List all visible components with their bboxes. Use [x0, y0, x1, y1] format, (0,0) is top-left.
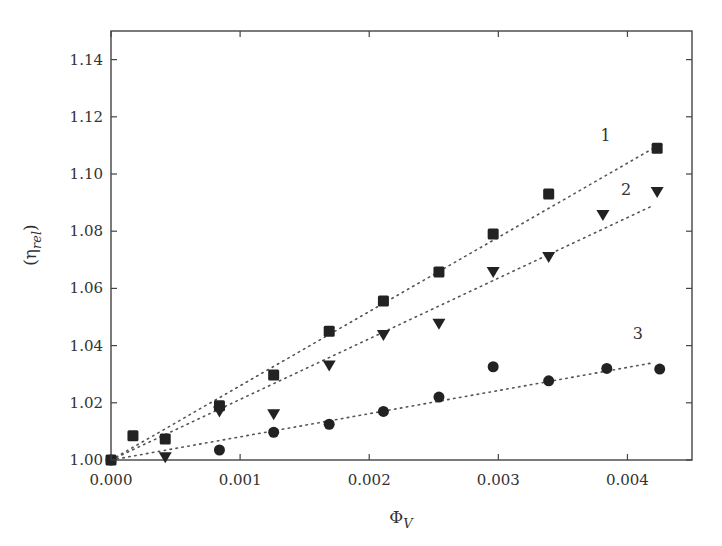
marker-square — [488, 229, 499, 240]
marker-triangle-down — [267, 409, 280, 420]
marker-circle — [214, 444, 225, 455]
y-axis-ticks: 1.001.021.041.061.081.101.121.14 — [70, 51, 692, 469]
marker-circle — [654, 364, 665, 375]
marker-square — [433, 267, 444, 278]
marker-circle — [268, 427, 279, 438]
marker-square — [324, 326, 335, 337]
x-tick-label: 0.004 — [606, 471, 649, 489]
x-tick-label: 0.002 — [348, 471, 391, 489]
marker-triangle-down — [487, 267, 500, 278]
marker-triangle-down — [596, 210, 609, 221]
y-tick-label: 1.00 — [70, 451, 103, 469]
marker-square — [543, 189, 554, 200]
marker-triangle-down — [377, 330, 390, 341]
x-tick-label: 0.001 — [219, 471, 262, 489]
y-tick-label: 1.12 — [70, 108, 103, 126]
y-tick-label: 1.10 — [70, 165, 103, 183]
marker-square — [378, 295, 389, 306]
chart-canvas: 123 0.0000.0010.0020.0030.004 1.001.021.… — [0, 0, 722, 546]
marker-triangle-down — [542, 252, 555, 263]
y-tick-label: 1.04 — [70, 337, 103, 355]
marker-triangle-down — [323, 361, 336, 372]
marker-circle — [378, 406, 389, 417]
series-label-2: 2 — [621, 180, 631, 199]
y-tick-label: 1.06 — [70, 279, 103, 297]
marker-triangle-down — [651, 187, 664, 198]
marker-circle — [324, 419, 335, 430]
plot-frame — [111, 31, 692, 460]
marker-circle — [488, 361, 499, 372]
series-labels: 123 — [600, 126, 642, 343]
marker-square — [652, 143, 663, 154]
marker-square — [127, 430, 138, 441]
data-markers — [106, 143, 666, 466]
x-tick-label: 0.003 — [477, 471, 520, 489]
marker-triangle-down — [159, 452, 172, 463]
marker-circle — [433, 392, 444, 403]
y-tick-label: 1.14 — [70, 51, 103, 69]
x-axis-ticks: 0.0000.0010.0020.0030.004 — [90, 31, 649, 489]
y-axis-label: (ηrel) — [20, 224, 44, 266]
marker-circle — [543, 375, 554, 386]
y-tick-label: 1.08 — [70, 222, 103, 240]
series-label-1: 1 — [600, 126, 610, 145]
x-axis-label: ΦV — [389, 507, 414, 531]
y-tick-label: 1.02 — [70, 394, 103, 412]
marker-square — [160, 434, 171, 445]
series-label-3: 3 — [633, 324, 643, 343]
marker-square — [268, 370, 279, 381]
x-tick-label: 0.000 — [90, 471, 133, 489]
plot-area — [111, 31, 692, 460]
marker-circle — [601, 363, 612, 374]
marker-triangle-down — [432, 319, 445, 330]
